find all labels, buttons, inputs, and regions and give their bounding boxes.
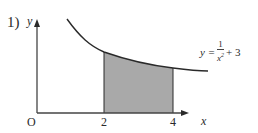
question-number: 1) xyxy=(7,15,20,30)
equation-denominator: x2 xyxy=(217,50,224,63)
equation-numerator: 1 xyxy=(217,40,224,50)
y-axis-arrow-icon xyxy=(34,19,40,27)
equation-rhs: + 3 xyxy=(226,46,240,58)
equation-lhs: y = xyxy=(200,46,215,58)
x-tick-4: 4 xyxy=(170,116,176,128)
x-tick-2: 2 xyxy=(101,116,107,128)
x-axis-label: x xyxy=(201,115,206,127)
origin-label: O xyxy=(27,116,36,128)
x-axis-arrow-icon xyxy=(181,110,189,116)
equation-exponent: 2 xyxy=(221,52,224,58)
shaded-area xyxy=(104,52,173,113)
equation-fraction: 1 x2 xyxy=(217,40,224,63)
y-axis-label: y xyxy=(27,15,32,27)
graph xyxy=(0,0,258,133)
equation-label: y = 1 x2 + 3 xyxy=(200,40,241,63)
